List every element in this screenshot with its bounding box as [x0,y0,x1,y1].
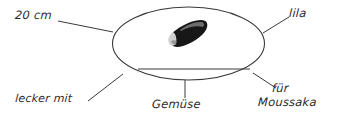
leader-line-serving [88,74,123,101]
label-serving-line-1: lecker mit [15,92,90,106]
label-category: Gemüse [152,98,201,111]
leader-line-size [58,21,113,32]
label-size: 20 cm [15,9,53,22]
eggplant-illustration [168,20,207,47]
label-dish-line-1: für [272,82,289,95]
label-serving-suggestion: lecker mit Zwiebeln und Tomaten [9,65,91,126]
leader-line-color [263,17,289,33]
aubergine-sketch-figure: 20 cm lila lecker mit Zwiebeln und Tomat… [0,0,340,126]
label-color: lila [289,7,307,20]
label-dish-line-2: Moussaka [258,96,317,109]
